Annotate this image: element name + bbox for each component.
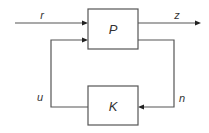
signal-n-line [138,40,174,107]
block-p-label: P [109,22,118,37]
signal-n-label: n [179,92,185,104]
signal-r-label: r [40,9,45,21]
signal-n-arrow [138,105,144,110]
signal-r-arrow [82,21,88,26]
signal-u-line [51,40,88,107]
signal-u-arrow [82,38,88,43]
signal-z-arrow [195,21,201,26]
signal-z-label: z [173,9,180,21]
block-diagram: P K r z n u [0,0,209,133]
block-k-label: K [109,99,119,114]
signal-u-label: u [37,91,43,103]
